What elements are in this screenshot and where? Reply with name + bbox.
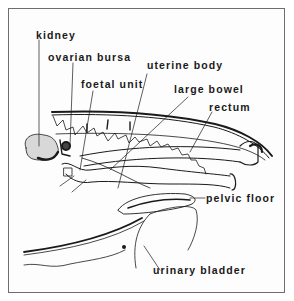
uterus-drawing: [62, 163, 236, 190]
bladder-drawing: [24, 207, 197, 268]
label-pelvic-floor: pelvic floor: [206, 193, 275, 204]
label-ovarian-bursa: ovarian bursa: [48, 52, 131, 63]
label-foetal-unit: foetal unit: [81, 79, 143, 90]
label-large-bowel: large bowel: [174, 84, 244, 95]
label-rectum: rectum: [209, 102, 251, 113]
pelvic-floor-drawing: [118, 194, 195, 214]
foetal-unit-drawing: [82, 158, 150, 188]
label-kidney: kidney: [36, 30, 76, 41]
bowel-drawing: [80, 142, 262, 167]
label-urinary-bladder: urinary bladder: [153, 265, 246, 276]
label-uterine-body: uterine body: [147, 60, 223, 71]
anatomy-illustration: [0, 0, 294, 301]
kidney-drawing: [25, 134, 70, 160]
